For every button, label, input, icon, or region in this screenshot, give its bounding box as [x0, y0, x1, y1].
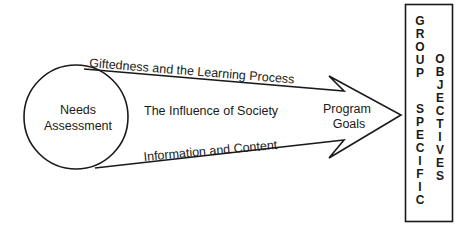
letter: S [436, 169, 444, 183]
program-goals-line1: Program [323, 102, 371, 116]
letter: V [436, 143, 444, 157]
letter: F [416, 167, 423, 181]
arrow-label-society: The Influence of Society [144, 104, 279, 118]
arrow-label-information: Information and Content [143, 138, 278, 164]
letter: B [436, 65, 445, 79]
letter: P [416, 115, 424, 129]
letter: O [435, 52, 444, 66]
letter: S [416, 102, 424, 116]
letter: U [416, 53, 425, 67]
letter: C [416, 141, 425, 155]
program-goals-line2: Goals [333, 117, 366, 131]
column-objectives: O B J E C T I V E S [435, 52, 444, 183]
letter: E [436, 91, 444, 105]
letter: C [416, 193, 425, 207]
group-specific-objectives-box [406, 5, 453, 222]
arrow-label-giftedness: Giftedness and the Learning Process [89, 56, 295, 86]
letter: C [436, 104, 445, 118]
letter: J [437, 78, 444, 92]
letter: P [416, 66, 424, 80]
needs-assessment-circle [24, 65, 128, 169]
letter: R [416, 27, 425, 41]
letter: E [436, 156, 444, 170]
letter: I [418, 154, 421, 168]
letter: T [436, 117, 444, 131]
diagram-canvas: Needs Assessment Giftedness and the Lear… [0, 0, 472, 234]
letter: O [415, 40, 424, 54]
letter: E [416, 128, 424, 142]
needs-label-line1: Needs [60, 103, 96, 117]
needs-label-line2: Assessment [44, 119, 113, 133]
letter: G [415, 14, 424, 28]
letter: I [418, 180, 421, 194]
letter: I [438, 130, 441, 144]
column-group-specific: G R O U P S P E C I F I C [415, 14, 424, 207]
